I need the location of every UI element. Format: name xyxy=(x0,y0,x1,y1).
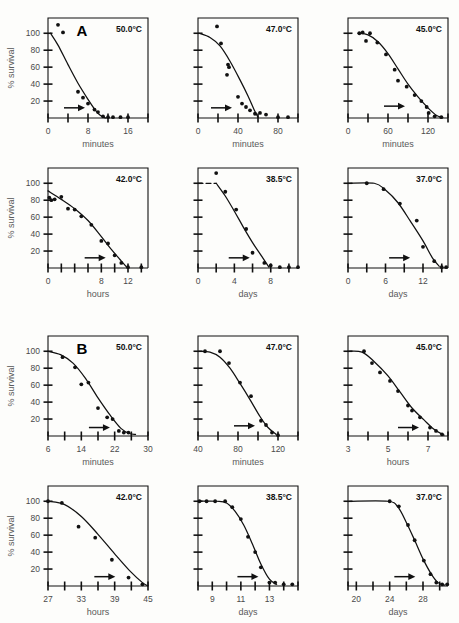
x-tick-label: 24 xyxy=(385,594,395,604)
data-point xyxy=(236,95,240,99)
data-point xyxy=(287,265,291,269)
x-axis-title: minutes xyxy=(82,457,114,467)
x-axis-title: hours xyxy=(387,457,410,467)
data-point xyxy=(406,404,410,408)
data-point xyxy=(286,115,290,119)
panel-A-47.0°C: 04080minutes47.0°C xyxy=(150,2,303,152)
data-point xyxy=(213,499,217,503)
data-point xyxy=(223,499,227,503)
data-point xyxy=(398,202,402,206)
x-tick-label: 6 xyxy=(383,276,388,286)
data-point xyxy=(215,25,219,29)
data-point xyxy=(362,349,366,353)
data-point xyxy=(384,53,388,57)
x-tick-label: 9 xyxy=(210,594,215,604)
data-point xyxy=(375,41,379,45)
data-point xyxy=(113,253,117,257)
data-point xyxy=(410,409,414,413)
y-tick-label: 20 xyxy=(31,246,41,256)
threshold-arrow xyxy=(94,573,115,580)
data-point xyxy=(105,415,109,419)
data-point xyxy=(46,499,50,503)
data-point xyxy=(419,99,423,103)
x-tick-label: 8 xyxy=(86,126,91,136)
data-point xyxy=(87,381,91,385)
threshold-arrow xyxy=(64,104,85,111)
data-point xyxy=(110,558,114,562)
x-tick-label: 11 xyxy=(236,594,245,604)
x-axis-title: minutes xyxy=(382,139,414,149)
x-axis-title: days xyxy=(388,289,408,299)
y-tick-label: 40 xyxy=(31,547,41,557)
data-point xyxy=(415,219,419,223)
x-tick-label: 16 xyxy=(123,126,133,136)
panel-A-38.5°C: 048days38.5°C xyxy=(150,152,303,302)
panel-B-38.5°C: 91113days38.5°C xyxy=(150,470,303,620)
temperature-label: 38.5°C xyxy=(266,492,292,502)
data-point xyxy=(79,214,83,218)
x-tick-label: 120 xyxy=(421,126,435,136)
y-tick-label: 80 xyxy=(31,363,41,373)
plot-500: 204060801006142230minutes50.0°C% surviva… xyxy=(0,320,153,470)
data-point xyxy=(203,349,207,353)
data-point xyxy=(76,90,80,94)
x-tick-label: 0 xyxy=(196,126,201,136)
data-point xyxy=(397,504,401,508)
x-tick-label: 14 xyxy=(77,444,87,454)
data-point xyxy=(79,382,83,386)
data-point xyxy=(248,108,252,112)
x-tick-label: 0 xyxy=(46,126,51,136)
temperature-label: 42.0°C xyxy=(116,174,142,184)
x-tick-label: 33 xyxy=(77,594,87,604)
data-point xyxy=(117,429,121,433)
y-tick-label: 100 xyxy=(26,346,40,356)
plot-470: 04080minutes47.0°C xyxy=(150,2,303,152)
data-point xyxy=(126,265,130,269)
x-axis-title: hours xyxy=(87,289,110,299)
group-label: B xyxy=(77,340,88,357)
y-tick-label: 40 xyxy=(31,79,41,89)
x-tick-label: 40 xyxy=(233,126,243,136)
data-point xyxy=(73,365,77,369)
data-point xyxy=(365,181,369,185)
threshold-arrow xyxy=(384,103,405,110)
data-point xyxy=(61,355,65,359)
data-point xyxy=(439,115,443,119)
temperature-label: 42.0°C xyxy=(116,492,142,502)
panel-A-45.0°C: 060120minutes45.0°C xyxy=(300,2,453,152)
y-tick-label: 60 xyxy=(31,212,41,222)
data-point xyxy=(445,582,449,586)
y-tick-label: 100 xyxy=(26,28,40,38)
plot-370: 0612days37.0°C xyxy=(300,152,453,302)
data-point xyxy=(244,105,248,109)
data-point xyxy=(246,535,250,539)
y-tick-label: 60 xyxy=(31,62,41,72)
threshold-arrow xyxy=(237,573,258,580)
y-tick-label: 60 xyxy=(31,530,41,540)
data-point xyxy=(119,261,123,265)
data-point xyxy=(434,581,438,585)
data-point xyxy=(413,93,417,97)
x-tick-label: 27 xyxy=(43,594,53,604)
data-point xyxy=(111,115,115,119)
temperature-label: 50.0°C xyxy=(116,342,142,352)
data-point xyxy=(388,379,392,383)
data-point xyxy=(93,536,97,540)
panel-B-47.0°C: 4080120minutes47.0°C xyxy=(150,320,303,470)
data-point xyxy=(60,501,64,505)
data-point xyxy=(421,245,425,249)
plot-420: 204060801000812hours42.0°C% survival xyxy=(0,152,153,302)
x-axis-title: minutes xyxy=(232,139,264,149)
data-point xyxy=(198,499,202,503)
data-point xyxy=(239,517,243,521)
data-point xyxy=(227,65,231,69)
plot-420: 2040608010027333945hours42.0°C% survival xyxy=(0,470,153,620)
y-tick-label: 20 xyxy=(31,414,41,424)
temperature-label: 50.0°C xyxy=(116,24,142,34)
data-point xyxy=(259,565,263,569)
threshold-arrow xyxy=(211,104,232,111)
data-point xyxy=(427,111,431,115)
data-point xyxy=(428,426,432,430)
data-point xyxy=(440,265,444,269)
data-point xyxy=(73,208,77,212)
